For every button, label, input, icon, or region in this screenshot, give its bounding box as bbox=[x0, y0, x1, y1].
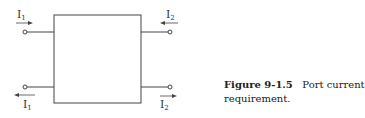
figure-label: Figure 9-1.5 bbox=[224, 79, 293, 90]
caption-line-1: Port current bbox=[302, 79, 364, 90]
left-top-terminal bbox=[23, 30, 27, 34]
label-left-bottom: I1 bbox=[23, 98, 32, 112]
left-bottom-terminal bbox=[23, 85, 27, 89]
right-bottom-terminal bbox=[168, 85, 172, 89]
figure-caption: Figure 9-1.5 Port current requirement. bbox=[224, 78, 365, 106]
label-right-bottom: I2 bbox=[160, 98, 169, 112]
label-right-top: I2 bbox=[166, 8, 175, 22]
label-left-top: I1 bbox=[17, 8, 26, 22]
right-top-arrow-icon bbox=[160, 21, 178, 25]
caption-line-2: requirement. bbox=[224, 92, 365, 106]
right-top-terminal bbox=[168, 30, 172, 34]
left-bottom-arrow-icon bbox=[14, 93, 35, 97]
network-box bbox=[54, 15, 141, 103]
